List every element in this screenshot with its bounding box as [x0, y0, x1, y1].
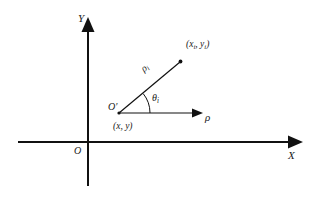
- local-origin-coordinates-label: (x, y): [113, 122, 133, 132]
- radial-segment: [119, 60, 182, 113]
- local-origin-label: O′: [108, 102, 117, 112]
- local-rho-axis-arrowhead-icon: [192, 109, 203, 118]
- x-axis-arrowhead-icon: [288, 136, 303, 149]
- endpoint-coordinates-label: (xi, yi): [186, 40, 209, 50]
- theta-subscript: i: [157, 97, 159, 105]
- rho-axis-label: ρ: [205, 112, 210, 123]
- endpoint-close-paren: ): [206, 39, 209, 49]
- x-axis: [18, 136, 303, 149]
- local-origin-dot-marker: [117, 111, 120, 114]
- x-axis-label: X: [288, 150, 295, 161]
- endpoint-dot-marker: [179, 60, 183, 64]
- theta-angle-arc: [143, 94, 150, 113]
- y-axis-label: Y: [78, 13, 84, 24]
- endpoint-separator: , y: [195, 39, 204, 49]
- theta-angle-label: θi: [152, 93, 159, 105]
- y-axis: [82, 17, 95, 186]
- global-origin-label: O: [74, 146, 81, 156]
- local-origin-prime-mark: ′: [115, 101, 117, 112]
- local-rho-axis: [119, 109, 203, 118]
- coordinate-diagram: Y X O ρ O′ (x, y) (xi, yi) ρi θi: [0, 0, 310, 202]
